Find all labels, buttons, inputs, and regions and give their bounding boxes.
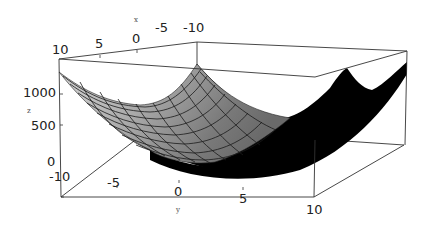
x-tick-neg5: -5 (155, 20, 168, 35)
y-tick-neg5: -5 (107, 175, 120, 190)
x-axis-label: x (134, 16, 138, 24)
z-axis-label: z (27, 107, 31, 115)
y-tick-5: 5 (239, 191, 247, 206)
y-tick-0: 0 (174, 184, 182, 199)
y-tick-neg10: -10 (49, 169, 70, 184)
x-tick-10: 10 (52, 42, 69, 57)
y-axis-label: y (175, 206, 180, 214)
y-tick-10: 10 (306, 202, 323, 217)
z-tick-500: 500 (31, 118, 56, 133)
z-tick-0: 0 (47, 154, 55, 169)
x-tick-neg10: -10 (183, 20, 204, 35)
surface (59, 62, 407, 179)
surface-plot: 10 5 0 -5 -10 x 1000 500 0 z -10 -5 0 5 … (0, 0, 429, 227)
z-tick-1000: 1000 (23, 85, 56, 100)
x-tick-5: 5 (95, 36, 103, 51)
x-tick-0: 0 (132, 31, 140, 46)
